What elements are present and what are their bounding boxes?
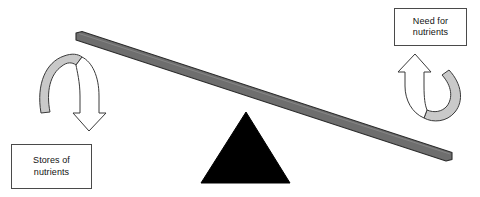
fulcrum-body — [201, 112, 290, 183]
label-box-need-for-nutrients: Need for nutrients — [394, 8, 467, 46]
arrow-curving-up — [398, 54, 461, 121]
arrow-down-band — [40, 54, 82, 113]
arrow-up-head — [398, 54, 431, 118]
arrow-curving-down — [40, 54, 106, 131]
arrow-up-band — [424, 70, 461, 121]
arrow-down-head — [73, 57, 106, 131]
beam-highlight — [79, 34, 450, 155]
diagram-canvas: Stores of nutrients Need for nutrients — [0, 0, 480, 197]
label-box-stores-of-nutrients: Stores of nutrients — [11, 144, 92, 189]
label-text-stores-of-nutrients: Stores of nutrients — [29, 155, 74, 178]
label-text-need-for-nutrients: Need for nutrients — [409, 16, 452, 39]
fulcrum-triangle — [201, 112, 290, 183]
